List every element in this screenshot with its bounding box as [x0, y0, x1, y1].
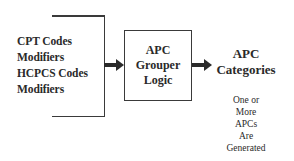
bracket-top [52, 15, 105, 17]
input-cpt-codes: CPT Codes [17, 33, 88, 49]
bracket-bottom [52, 116, 105, 118]
output-note-line-4: Are [212, 130, 280, 142]
process-line-3: Logic [144, 73, 173, 88]
output-note: One or More APCs Are Generated [212, 94, 280, 154]
input-modifiers-1: Modifiers [17, 49, 88, 65]
output-title-line-1: APC [212, 46, 280, 62]
input-modifiers-2: Modifiers [17, 81, 88, 97]
output-note-line-3: APCs [212, 118, 280, 130]
process-line-2: Grouper [136, 58, 180, 73]
apc-grouper-logic-box: APC Grouper Logic [124, 30, 192, 101]
output-note-line-1: One or [212, 94, 280, 106]
input-hcpcs-codes: HCPCS Codes [17, 65, 88, 81]
input-list: CPT Codes Modifiers HCPCS Codes Modifier… [17, 33, 88, 97]
output-note-line-2: More [212, 106, 280, 118]
output-note-line-5: Generated [212, 142, 280, 154]
output-title-line-2: Categories [212, 62, 280, 78]
output-title: APC Categories [212, 46, 280, 78]
arrow-right-icon [104, 59, 126, 71]
process-line-1: APC [146, 43, 171, 58]
arrow-right-icon [192, 59, 214, 71]
